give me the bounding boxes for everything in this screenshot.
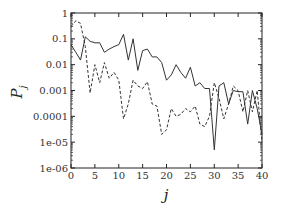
x-tick-label: 0 xyxy=(68,170,74,181)
y-tick-label: 1e-06 xyxy=(40,163,68,174)
x-tick-label: 15 xyxy=(136,170,149,181)
y-tick-label: 0.0001 xyxy=(33,111,68,122)
x-tick-label: 10 xyxy=(112,170,125,181)
x-tick-label: 5 xyxy=(92,170,98,181)
series-dashed-line xyxy=(71,21,262,142)
x-tick-label: 40 xyxy=(256,170,269,181)
x-tick-label: 35 xyxy=(232,170,245,181)
x-axis-tick-labels: 0510152025303540 xyxy=(68,170,269,181)
x-tick-label: 20 xyxy=(160,170,173,181)
plot-area xyxy=(71,13,262,168)
y-tick-label: 1 xyxy=(62,8,68,19)
y-tick-label: 1e-05 xyxy=(40,137,68,148)
y-axis-tick-labels: 10.10.010.0010.00011e-051e-06 xyxy=(33,8,68,174)
y-tick-label: 0.01 xyxy=(46,59,68,70)
svg-text:Pj: Pj xyxy=(8,85,28,99)
y-tick-label: 0.1 xyxy=(52,33,68,44)
y-tick-label: 0.001 xyxy=(39,85,68,96)
x-tick-label: 30 xyxy=(208,170,221,181)
x-tick-label: 25 xyxy=(184,170,197,181)
series-solid-line xyxy=(71,34,262,150)
y-axis-label: Pj xyxy=(8,85,28,99)
x-axis-label: j xyxy=(161,186,169,204)
chart: 0510152025303540 10.10.010.0010.00011e-0… xyxy=(0,0,282,208)
